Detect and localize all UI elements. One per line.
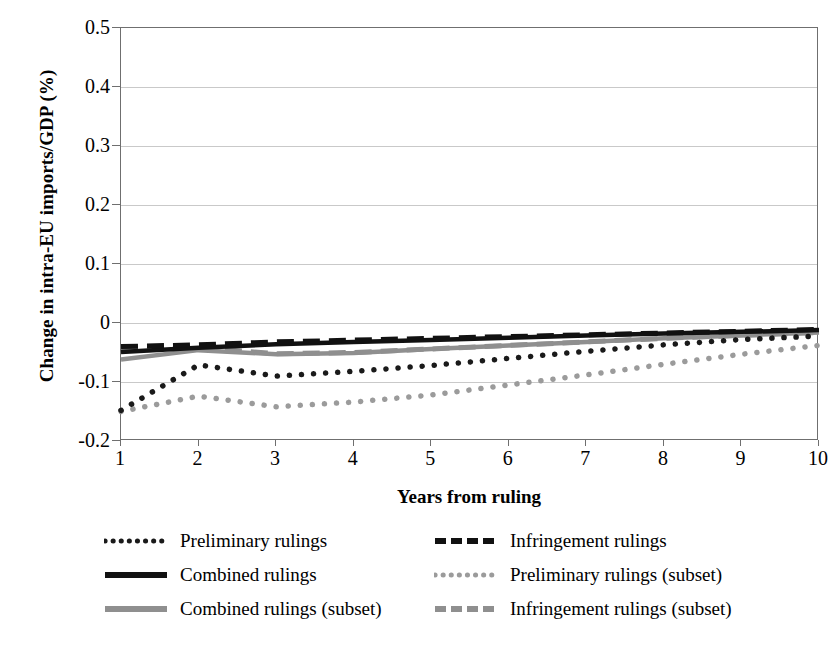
legend-row: Combined rulings (subset)Infringement ru… <box>104 592 804 626</box>
legend-swatch-dotted-icon <box>434 568 498 582</box>
legend-swatch-dotted-icon <box>104 534 168 548</box>
legend-item[interactable]: Infringement rulings (subset) <box>434 592 804 626</box>
legend-row: Combined rulingsPreliminary rulings (sub… <box>104 558 804 592</box>
y-tick-mark <box>112 381 120 382</box>
x-tick-label: 5 <box>400 447 460 470</box>
plot-area <box>120 27 818 440</box>
legend-label: Infringement rulings (subset) <box>510 598 732 620</box>
legend-row: Preliminary rulingsInfringement rulings <box>104 524 804 558</box>
y-tick-mark <box>112 27 120 28</box>
y-tick-mark <box>112 86 120 87</box>
x-tick-mark <box>585 440 586 446</box>
y-tick-mark <box>112 322 120 323</box>
y-tick-label: 0 <box>10 312 110 332</box>
y-tick-mark <box>112 145 120 146</box>
x-tick-label: 10 <box>788 447 832 470</box>
x-tick-mark <box>508 440 509 446</box>
legend-label: Combined rulings <box>180 564 317 586</box>
x-tick-mark <box>663 440 664 446</box>
y-tick-label: 0.1 <box>10 253 110 273</box>
legend-label: Preliminary rulings <box>180 530 327 552</box>
x-tick-label: 1 <box>90 447 150 470</box>
y-tick-mark <box>112 263 120 264</box>
chart-legend: Preliminary rulingsInfringement rulingsC… <box>104 524 804 626</box>
legend-swatch-solid-icon <box>104 568 168 582</box>
legend-swatch-solid-icon <box>104 602 168 616</box>
x-tick-label: 7 <box>555 447 615 470</box>
legend-label: Infringement rulings <box>510 530 667 552</box>
x-tick-label: 4 <box>323 447 383 470</box>
x-tick-label: 9 <box>710 447 770 470</box>
x-tick-mark <box>430 440 431 446</box>
legend-swatch-dashed-icon <box>434 534 498 548</box>
chart-figure: Change in intra-EU imports/GDP (%) 0.50.… <box>0 0 832 649</box>
y-tick-label: -0.1 <box>10 371 110 391</box>
x-tick-mark <box>818 440 819 446</box>
legend-item[interactable]: Combined rulings (subset) <box>104 592 434 626</box>
x-tick-label: 3 <box>245 447 305 470</box>
y-tick-mark <box>112 204 120 205</box>
x-tick-mark <box>740 440 741 446</box>
y-tick-label: 0.2 <box>10 194 110 214</box>
legend-item[interactable]: Preliminary rulings <box>104 524 434 558</box>
x-axis-title: Years from ruling <box>120 486 818 508</box>
x-tick-mark <box>198 440 199 446</box>
y-tick-label: 0.5 <box>10 17 110 37</box>
legend-item[interactable]: Preliminary rulings (subset) <box>434 558 804 592</box>
legend-item[interactable]: Infringement rulings <box>434 524 804 558</box>
legend-swatch-dashed-icon <box>434 602 498 616</box>
x-tick-label: 2 <box>168 447 228 470</box>
legend-label: Preliminary rulings (subset) <box>510 564 722 586</box>
y-tick-label: 0.4 <box>10 76 110 96</box>
x-tick-label: 8 <box>633 447 693 470</box>
x-tick-mark <box>120 440 121 446</box>
y-tick-label: 0.3 <box>10 135 110 155</box>
data-series-layer <box>121 28 819 441</box>
legend-label: Combined rulings (subset) <box>180 598 382 620</box>
y-tick-mark <box>112 440 120 441</box>
x-tick-mark <box>353 440 354 446</box>
legend-item[interactable]: Combined rulings <box>104 558 434 592</box>
x-tick-label: 6 <box>478 447 538 470</box>
series-line <box>121 345 819 411</box>
x-tick-mark <box>275 440 276 446</box>
